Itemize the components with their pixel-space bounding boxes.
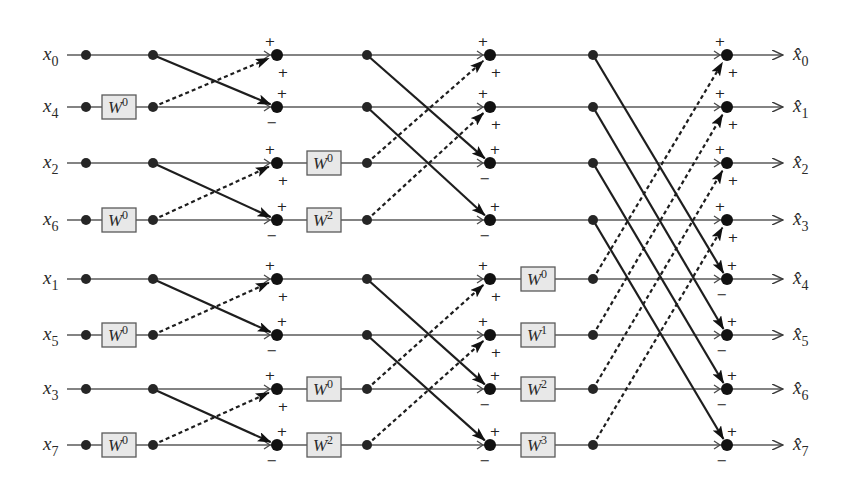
butterfly-solid-edge bbox=[593, 55, 723, 273]
output-label: x̂7 bbox=[792, 433, 808, 459]
butterfly-solid-edge bbox=[593, 107, 723, 329]
butterfly-dashed-edge bbox=[367, 113, 483, 220]
node-dot bbox=[148, 384, 158, 394]
adder-node bbox=[484, 329, 496, 341]
butterfly-solid-edge bbox=[367, 335, 485, 440]
adder-node bbox=[271, 49, 283, 61]
node-dot bbox=[362, 440, 372, 450]
node-dot bbox=[588, 440, 598, 450]
plus-sign: + bbox=[715, 86, 726, 101]
plus-sign: + bbox=[727, 258, 738, 273]
plus-sign: + bbox=[715, 199, 726, 214]
adder-node bbox=[484, 383, 496, 395]
adder-node bbox=[271, 439, 283, 451]
node-dot bbox=[148, 50, 158, 60]
butterfly-solid-edge bbox=[153, 279, 271, 332]
adder-node bbox=[271, 329, 283, 341]
node-dot bbox=[362, 215, 372, 225]
output-label: x̂1 bbox=[792, 95, 808, 121]
minus-sign: − bbox=[717, 343, 728, 358]
butterfly-solid-edge bbox=[593, 163, 723, 383]
input-label: x3 bbox=[42, 377, 58, 403]
adder-node bbox=[271, 214, 283, 226]
twiddle-box: W0 bbox=[307, 377, 341, 401]
twiddle-box: W2 bbox=[307, 208, 341, 232]
adder-node bbox=[271, 101, 283, 113]
output-label: x̂5 bbox=[792, 323, 808, 349]
input-label: x5 bbox=[42, 323, 58, 349]
node-dot bbox=[148, 158, 158, 168]
plus-sign: + bbox=[278, 399, 289, 414]
adder-node bbox=[721, 273, 733, 285]
butterfly-dashed-edge bbox=[153, 167, 269, 220]
minus-sign: − bbox=[267, 115, 278, 130]
adder-node bbox=[271, 383, 283, 395]
twiddle-box: W2 bbox=[307, 433, 341, 457]
twiddle-box: W2 bbox=[521, 377, 555, 401]
node-dot bbox=[81, 158, 91, 168]
plus-sign: + bbox=[278, 173, 289, 188]
node-dot bbox=[148, 215, 158, 225]
adder-node bbox=[484, 101, 496, 113]
plus-sign: + bbox=[727, 368, 738, 383]
plus-sign: + bbox=[491, 117, 502, 132]
output-label: x̂6 bbox=[792, 377, 808, 403]
plus-sign: + bbox=[278, 289, 289, 304]
nodes bbox=[81, 49, 733, 451]
plus-sign: + bbox=[490, 199, 501, 214]
node-dot bbox=[81, 330, 91, 340]
butterfly-solid-edge bbox=[367, 279, 485, 384]
butterfly-dashed-edge bbox=[593, 63, 722, 279]
minus-sign: − bbox=[717, 287, 728, 302]
output-label: x̂2 bbox=[792, 151, 808, 177]
plus-sign: + bbox=[728, 117, 739, 132]
plus-sign: + bbox=[265, 142, 276, 157]
plus-sign: + bbox=[727, 314, 738, 329]
adder-node bbox=[484, 439, 496, 451]
plus-sign: + bbox=[715, 142, 726, 157]
minus-sign: − bbox=[717, 397, 728, 412]
adder-node bbox=[271, 157, 283, 169]
node-dot bbox=[81, 102, 91, 112]
node-dot bbox=[362, 330, 372, 340]
node-dot bbox=[588, 215, 598, 225]
minus-sign: − bbox=[267, 343, 278, 358]
adder-node bbox=[721, 157, 733, 169]
node-dot bbox=[148, 330, 158, 340]
adder-node bbox=[721, 439, 733, 451]
node-dot bbox=[362, 158, 372, 168]
node-dot bbox=[588, 384, 598, 394]
node-dot bbox=[588, 274, 598, 284]
plus-sign: + bbox=[277, 424, 288, 439]
node-dot bbox=[81, 274, 91, 284]
minus-sign: − bbox=[480, 453, 491, 468]
butterfly-dashed-edge bbox=[367, 285, 483, 389]
plus-sign: + bbox=[490, 368, 501, 383]
twiddle-box: W0 bbox=[102, 433, 136, 457]
adder-node bbox=[271, 273, 283, 285]
minus-sign: − bbox=[267, 228, 278, 243]
butterfly-dashed-edge bbox=[153, 58, 269, 107]
plus-sign: + bbox=[478, 314, 489, 329]
minus-sign: − bbox=[717, 453, 728, 468]
plus-sign: + bbox=[728, 173, 739, 188]
input-label: x7 bbox=[42, 433, 58, 459]
node-dot bbox=[148, 274, 158, 284]
twiddle-box: W0 bbox=[102, 323, 136, 347]
fft-butterfly-diagram: W0W0W0W0W0W2W0W2W0W1W2W3 +++−+++−+++−+++… bbox=[0, 0, 852, 492]
input-label: x6 bbox=[42, 208, 58, 234]
output-label: x̂4 bbox=[792, 267, 808, 293]
node-dot bbox=[81, 50, 91, 60]
node-dot bbox=[148, 102, 158, 112]
plus-sign: + bbox=[478, 86, 489, 101]
plus-sign: + bbox=[277, 86, 288, 101]
input-label: x2 bbox=[42, 151, 58, 177]
plus-sign: + bbox=[265, 258, 276, 273]
plus-sign: + bbox=[490, 424, 501, 439]
node-dot bbox=[81, 384, 91, 394]
node-dot bbox=[148, 440, 158, 450]
node-dot bbox=[588, 102, 598, 112]
twiddle-box: W3 bbox=[521, 433, 555, 457]
adder-signs: +++−+++−+++−+++−+++++−+−+++++−+−++++++++… bbox=[265, 34, 739, 468]
butterfly-dashed-edge bbox=[367, 341, 483, 445]
